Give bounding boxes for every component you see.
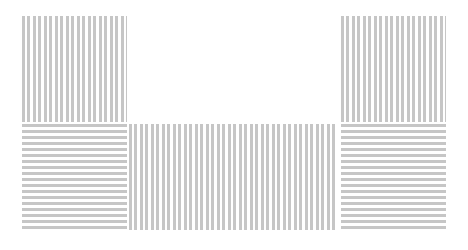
stripe-block-bottom-center bbox=[129, 124, 338, 230]
stripe-block-top-right bbox=[341, 16, 446, 122]
stripe-block-top-left bbox=[22, 16, 127, 122]
stripe-block-bottom-left bbox=[22, 124, 127, 230]
stripe-block-bottom-right bbox=[341, 124, 446, 230]
